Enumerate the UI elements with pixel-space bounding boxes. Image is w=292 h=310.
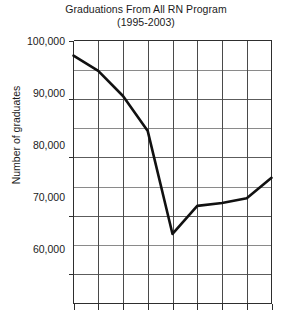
axis-frame xyxy=(74,41,272,304)
line-chart: Graduations From All RN Program (1995-20… xyxy=(0,0,292,310)
x-axis-ticks xyxy=(75,304,273,310)
horizontal-gridlines xyxy=(74,71,272,275)
vertical-gridlines xyxy=(99,41,248,304)
plot-area xyxy=(0,0,292,310)
y-axis-ticks xyxy=(69,42,74,275)
data-series-line xyxy=(74,56,272,234)
